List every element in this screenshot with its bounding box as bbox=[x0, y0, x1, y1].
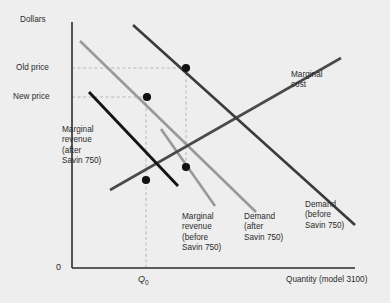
curve-marginal-revenue-after bbox=[89, 92, 178, 186]
guide-lines bbox=[72, 68, 187, 268]
q0-base: Q bbox=[138, 274, 145, 284]
marker-new-price-demand-after bbox=[143, 93, 151, 101]
q0-subscript: 0 bbox=[145, 279, 149, 286]
demand-after-annotation: Demand (after Savin 750) bbox=[244, 212, 283, 243]
x-axis-label: Quantity (model 3100) bbox=[286, 275, 367, 285]
marginal-revenue-after-annotation: Marginal revenue (after Savin 750) bbox=[62, 125, 101, 167]
marker-mr-before-mc-intersection bbox=[182, 163, 190, 171]
old-price-tick-label: Old price bbox=[16, 63, 49, 73]
marginal-cost-annotation: Marginal cost bbox=[291, 70, 323, 91]
origin-label: 0 bbox=[56, 262, 61, 272]
marker-mr-after-mc-intersection bbox=[142, 176, 150, 184]
q0-tick-label: Q0 bbox=[138, 274, 149, 288]
marginal-revenue-before-annotation: Marginal revenue (before Savin 750) bbox=[182, 212, 221, 254]
y-axis-label: Dollars bbox=[20, 15, 46, 25]
curve-demand-after bbox=[80, 41, 256, 212]
marker-old-price-demand-before bbox=[182, 64, 190, 72]
demand-before-annotation: Demand (before Savin 750) bbox=[305, 200, 344, 231]
new-price-tick-label: New price bbox=[13, 92, 50, 102]
economics-chart: Dollars Quantity (model 3100) Old price … bbox=[0, 0, 390, 303]
chart-canvas bbox=[0, 0, 390, 303]
